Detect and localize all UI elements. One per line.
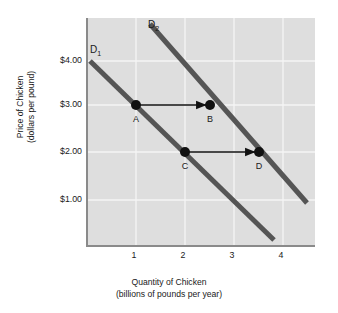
x-tick-3: 3 <box>220 250 244 260</box>
x-axis-tick-labels: 1 2 3 4 <box>0 250 338 266</box>
plot-area: D1 D2 A B C D <box>86 18 315 247</box>
data-point-a <box>131 100 141 110</box>
point-label-d: D <box>251 161 267 171</box>
x-axis-title: Quantity of Chicken (billions of pounds … <box>0 277 338 300</box>
point-label-c: C <box>177 161 193 171</box>
x-tick-4: 4 <box>269 250 293 260</box>
data-point-d <box>254 147 264 157</box>
y-axis-title-main: Price of Chicken <box>15 37 26 177</box>
data-point-c <box>180 147 190 157</box>
x-axis-title-main: Quantity of Chicken <box>0 277 338 289</box>
x-tick-2: 2 <box>171 250 195 260</box>
gridlines-vertical <box>136 18 283 245</box>
y-tick-2: $2.00 <box>38 146 82 156</box>
x-axis-title-units: (billions of pounds per year) <box>0 289 338 301</box>
y-tick-1: $1.00 <box>38 194 82 204</box>
point-label-b: B <box>202 114 218 124</box>
y-tick-4: $4.00 <box>38 55 82 65</box>
point-label-a: A <box>128 114 144 124</box>
curve-label-d1: D1 <box>90 44 101 57</box>
plot-svg <box>88 18 315 245</box>
y-axis-tick-labels: $4.00 $3.00 $2.00 $1.00 <box>36 0 82 313</box>
y-tick-3: $3.00 <box>38 99 82 109</box>
curve-label-d2: D2 <box>148 19 159 32</box>
x-tick-1: 1 <box>122 250 146 260</box>
demand-shift-chart: Price of Chicken (dollars per pound) $4.… <box>0 0 338 313</box>
data-point-b <box>205 100 215 110</box>
y-axis-title: Price of Chicken (dollars per pound) <box>15 37 37 177</box>
